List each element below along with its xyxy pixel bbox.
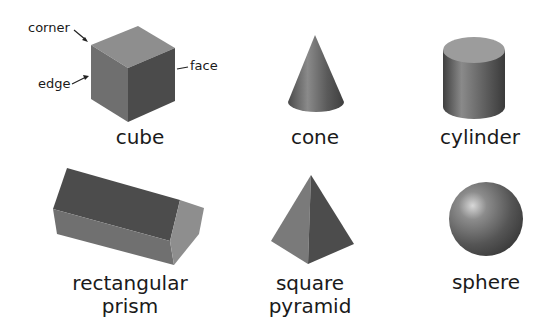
sphere-label: sphere [436, 272, 536, 293]
